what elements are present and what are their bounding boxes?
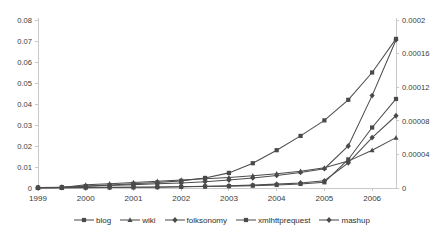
series-wiki	[36, 135, 399, 190]
legend-item-folksonomy[interactable]: folksonomy	[165, 215, 227, 225]
square-marker-icon	[74, 215, 94, 225]
diamond-marker-icon	[165, 215, 185, 225]
x-axis-tick-label: 2004	[268, 194, 286, 203]
series-mashup	[35, 37, 398, 190]
series-xmlhttprequest	[36, 97, 398, 190]
chart-legend: blogwikifolksonomyxmlhttprequestmashup	[0, 215, 444, 225]
y-axis-right-tick-label: 0.00004	[402, 150, 429, 159]
data-point	[227, 184, 231, 188]
x-axis-tick-label: 2006	[363, 194, 381, 203]
y-axis-left-tick-label: 0.05	[17, 79, 32, 88]
data-point	[370, 148, 375, 153]
x-axis: 19992000200120022003200420052006	[29, 188, 396, 203]
data-point	[370, 125, 374, 129]
data-series-group	[35, 37, 398, 191]
x-axis-tick-label: 2003	[220, 194, 238, 203]
y-axis-left-tick-label: 0.04	[17, 100, 32, 109]
legend-label: blog	[96, 216, 111, 225]
data-point	[346, 157, 350, 161]
data-point	[251, 184, 255, 188]
y-axis-right-tick-label: 0.00016	[402, 49, 429, 58]
square-marker-icon	[236, 215, 256, 225]
data-point	[394, 135, 399, 140]
triangle-marker-icon	[120, 215, 140, 225]
y-axis-right-tick-label: 0.00012	[402, 83, 429, 92]
data-point	[275, 183, 279, 187]
data-point	[346, 98, 350, 102]
line-chart: 00.010.020.030.040.050.060.070.08 00.000…	[0, 0, 444, 237]
data-point	[298, 182, 302, 186]
y-axis-right-tick-label: 0.0002	[402, 16, 425, 25]
x-axis-tick-label: 1999	[29, 194, 47, 203]
data-point	[275, 148, 279, 152]
x-axis-tick-label: 2005	[316, 194, 334, 203]
diamond-marker-icon	[319, 215, 339, 225]
y-axis-left-tick-label: 0.01	[17, 163, 32, 172]
data-point	[203, 184, 207, 188]
data-point	[322, 118, 326, 122]
legend-item-wiki[interactable]: wiki	[120, 215, 155, 225]
y-axis-right: 00.000040.000080.000120.000160.0002	[396, 16, 429, 193]
legend-label: wiki	[142, 216, 155, 225]
x-axis-tick-label: 2000	[77, 194, 95, 203]
legend-item-mashup[interactable]: mashup	[319, 215, 369, 225]
legend-label: folksonomy	[187, 216, 227, 225]
y-axis-left-tick-label: 0.08	[17, 16, 32, 25]
y-axis-left-tick-label: 0.07	[17, 37, 32, 46]
y-axis-left-tick-label: 0	[28, 184, 32, 193]
series-folksonomy	[35, 113, 398, 191]
legend-item-blog[interactable]: blog	[74, 215, 111, 225]
data-point	[370, 70, 374, 74]
y-axis-left: 00.010.020.030.040.050.060.070.08	[17, 16, 38, 193]
data-point	[298, 134, 302, 138]
x-axis-tick-label: 2002	[172, 194, 190, 203]
y-axis-right-tick-label: 0	[402, 184, 406, 193]
y-axis-left-tick-label: 0.02	[17, 142, 32, 151]
y-axis-left-tick-label: 0.03	[17, 121, 32, 130]
data-point	[227, 171, 231, 175]
data-point	[370, 93, 375, 99]
y-axis-right-tick-label: 0.00008	[402, 117, 429, 126]
x-axis-tick-label: 2001	[125, 194, 143, 203]
legend-label: mashup	[341, 216, 369, 225]
legend-label: xmlhttprequest	[258, 216, 310, 225]
data-point	[322, 180, 326, 184]
y-axis-left-tick-label: 0.06	[17, 58, 32, 67]
legend-item-xmlhttprequest[interactable]: xmlhttprequest	[236, 215, 310, 225]
chart-plot-area: 00.010.020.030.040.050.060.070.08 00.000…	[0, 0, 444, 237]
data-point	[251, 161, 255, 165]
data-point	[394, 97, 398, 101]
